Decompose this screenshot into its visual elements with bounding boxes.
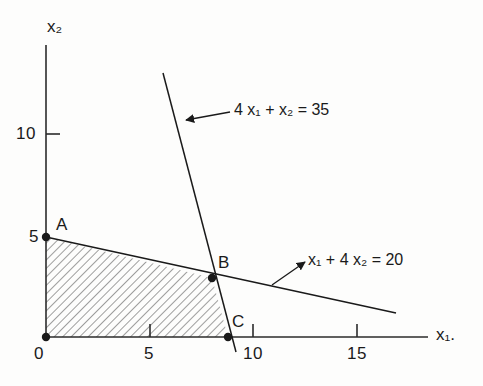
vertex-label-b: B: [218, 254, 229, 271]
x-tick-label-5: 5: [144, 345, 154, 362]
vertex-label-c: C: [232, 313, 244, 330]
constraint-label-steep: 4 x₁ + x₂ = 35: [234, 102, 329, 118]
constraint-label-shallow: x₁ + 4 x₂ = 20: [308, 252, 403, 268]
x-axis-label: x₁.: [436, 326, 455, 343]
vertex-origin: [42, 333, 50, 341]
origin-label: 0: [34, 345, 44, 362]
y-tick-label-10: 10: [16, 125, 36, 142]
y-tick-label-5: 5: [29, 228, 39, 245]
vertex-b: [208, 274, 216, 282]
x-tick-label-10: 10: [243, 345, 263, 362]
vertex-a: [42, 233, 50, 241]
x-tick-label-15: 15: [347, 345, 367, 362]
vertex-c: [224, 333, 232, 341]
vertex-label-a: A: [56, 216, 67, 233]
y-axis-label: x₂: [47, 18, 62, 35]
